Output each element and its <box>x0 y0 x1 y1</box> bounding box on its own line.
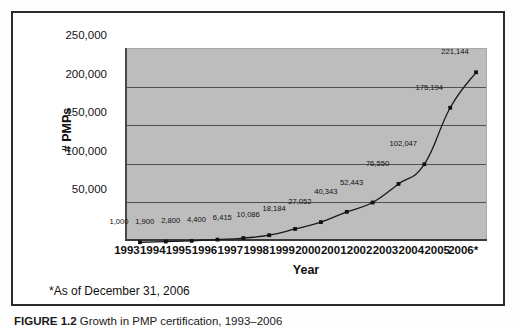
data-point-label: 221,144 <box>440 47 470 56</box>
data-point-label: 102,047 <box>388 139 418 148</box>
y-axis-tick-label: 200,000 <box>3 68 107 80</box>
x-axis-title: Year <box>125 263 487 277</box>
y-axis-tick-label: 250,000 <box>3 29 107 41</box>
chart-frame: # PMPs 250,000200,000150,000100,00050,00… <box>11 11 505 306</box>
data-point-label: 52,443 <box>337 178 367 187</box>
x-axis-tick-label: 2006* <box>448 244 478 256</box>
figure-caption-text: Growth in PMP certification, 1993–2006 <box>80 315 282 327</box>
data-point-label: 76,550 <box>363 159 393 168</box>
figure-caption: FIGURE 1.2 Growth in PMP certification, … <box>14 315 282 328</box>
y-axis-tick-label: 100,000 <box>3 145 107 157</box>
y-axis-title: # PMPs <box>60 70 74 190</box>
figure-container: # PMPs 250,000200,000150,000100,00050,00… <box>0 0 521 328</box>
plot-area <box>125 48 487 241</box>
footnote: *As of December 31, 2006 <box>49 284 190 298</box>
gridline <box>127 164 487 165</box>
gridline <box>127 48 487 49</box>
figure-caption-label: FIGURE 1.2 <box>14 315 77 327</box>
gridline <box>127 125 487 126</box>
y-axis-tick-label: 50,000 <box>3 183 107 195</box>
y-axis-tick-label: 150,000 <box>3 106 107 118</box>
data-point-label: 175,194 <box>414 83 444 92</box>
data-point-label: 40,343 <box>311 187 341 196</box>
data-point-label: 27,052 <box>285 197 315 206</box>
